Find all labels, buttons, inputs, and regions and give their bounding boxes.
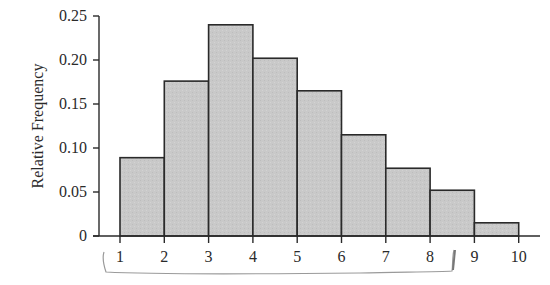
histogram-bar (430, 190, 474, 236)
histogram-bar (474, 223, 518, 236)
histogram-bar (253, 58, 297, 236)
histogram-bar (342, 135, 386, 236)
y-tick-label: 0.25 (59, 7, 87, 24)
y-tick-label: 0 (79, 227, 87, 244)
y-axis: 00.050.100.150.200.25 (59, 7, 99, 244)
x-tick-label: 5 (293, 248, 301, 265)
histogram-bar (120, 158, 164, 236)
y-tick-label: 0.20 (59, 51, 87, 68)
histogram-chart: 00.050.100.150.200.25 12345678910 Relati… (0, 0, 550, 285)
x-tick-label: 9 (470, 248, 478, 265)
y-tick-label: 0.10 (59, 139, 87, 156)
histogram-bar (386, 168, 430, 236)
x-tick-label: 3 (205, 248, 213, 265)
x-tick-label: 7 (382, 248, 390, 265)
x-tick-label: 8 (426, 248, 434, 265)
y-tick-label: 0.15 (59, 95, 87, 112)
x-tick-label: 4 (249, 248, 257, 265)
x-tick-label: 6 (338, 248, 346, 265)
x-tick-label: 10 (511, 248, 527, 265)
histogram-bars (120, 25, 519, 236)
x-axis: 12345678910 (93, 236, 540, 265)
x-tick-label: 1 (116, 248, 124, 265)
histogram-bar (297, 91, 341, 236)
y-axis-title: Relative Frequency (29, 64, 47, 189)
hand-drawn-bracket-annotation (103, 250, 454, 274)
x-tick-label: 2 (160, 248, 168, 265)
histogram-bar (164, 81, 208, 236)
y-tick-label: 0.05 (59, 183, 87, 200)
histogram-bar (209, 25, 253, 236)
